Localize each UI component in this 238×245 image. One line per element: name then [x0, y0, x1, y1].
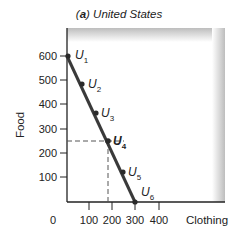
y-ticks: [60, 56, 67, 177]
label-u3: U3: [101, 106, 115, 123]
label-u6: U6: [141, 185, 155, 202]
svg-text:100: 100: [80, 214, 98, 226]
point-u2: [79, 81, 84, 86]
ppf-line: [67, 56, 135, 202]
svg-text:0: 0: [50, 214, 56, 226]
point-labels: U1 U2 U3 U4 U5 U6: [75, 48, 155, 202]
x-axis-label: Clothing: [186, 214, 228, 226]
frame-shadow-top: [67, 28, 225, 42]
svg-text:300: 300: [39, 123, 57, 135]
svg-text:500: 500: [39, 74, 57, 86]
label-u4: U4: [113, 134, 127, 151]
svg-text:200: 200: [39, 147, 57, 159]
point-u5: [120, 169, 125, 174]
point-u6: [132, 199, 137, 204]
x-tick-labels: 0 100 200 300 400: [50, 214, 168, 226]
point-u1: [65, 53, 70, 58]
frame-shadow-right: [212, 28, 225, 202]
x-ticks: [89, 202, 159, 210]
y-axis-label: Food: [14, 112, 26, 138]
chart-container: (a) United States: [0, 0, 238, 245]
y-tick-labels: 600 500 400 300 200 100: [39, 50, 57, 183]
point-u3: [93, 110, 98, 115]
point-u4: [105, 138, 111, 144]
svg-text:600: 600: [39, 50, 57, 62]
label-u5: U5: [128, 165, 142, 182]
svg-text:300: 300: [126, 214, 144, 226]
label-u1: U1: [75, 48, 89, 65]
plot-svg: 600 500 400 300 200 100 0 100 200 300 40…: [0, 0, 238, 245]
svg-text:200: 200: [103, 214, 121, 226]
svg-text:100: 100: [39, 171, 57, 183]
label-u2: U2: [88, 77, 102, 94]
svg-text:400: 400: [150, 214, 168, 226]
svg-text:400: 400: [39, 98, 57, 110]
